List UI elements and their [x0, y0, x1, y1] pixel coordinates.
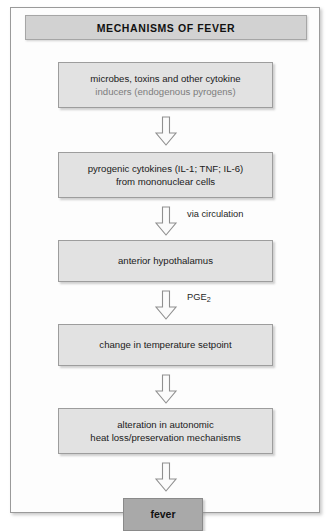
edge-label-pge2: PGE2 — [187, 292, 211, 302]
flow-node-inducers-line1: microbes, toxins and other cytokine — [90, 73, 240, 84]
arrow-down-icon — [153, 290, 179, 320]
flow-node-fever-text: fever — [144, 508, 181, 522]
flow-node-hypothalamus-text: anterior hypothalamus — [112, 254, 219, 268]
flow-node-inducers-text: microbes, toxins and other cytokine indu… — [84, 72, 246, 99]
edge-label-pge2-base: PGE — [187, 292, 207, 302]
edge-label-via-circulation: via circulation — [187, 209, 243, 219]
arrow-down-icon — [153, 462, 179, 492]
arrow-down-icon — [153, 374, 179, 404]
arrow-down-icon — [153, 116, 179, 146]
figure-frame: MECHANISMS OF FEVER microbes, toxins and… — [10, 7, 320, 513]
flow-node-inducers-line2: inducers (endogenous pyrogens) — [95, 86, 235, 97]
flow-node-cytokines-line2: from mononuclear cells — [116, 176, 215, 187]
flow-node-autonomic-text: alteration in autonomic heat loss/preser… — [84, 418, 246, 445]
flow-node-autonomic-line2: heat loss/preservation mechanisms — [90, 432, 240, 443]
flow-node-fever: fever — [123, 498, 203, 531]
flow-node-autonomic: alteration in autonomic heat loss/preser… — [58, 408, 273, 454]
flow-node-hypothalamus: anterior hypothalamus — [58, 240, 273, 282]
flow-node-cytokines-line1: pyrogenic cytokines (IL-1; TNF; IL-6) — [88, 163, 244, 174]
flow-node-autonomic-line1: alteration in autonomic — [117, 419, 214, 430]
flowchart: microbes, toxins and other cytokine indu… — [11, 48, 319, 510]
flow-node-setpoint-text: change in temperature setpoint — [93, 338, 237, 352]
flow-node-cytokines-text: pyrogenic cytokines (IL-1; TNF; IL-6) fr… — [82, 162, 250, 189]
page-title: MECHANISMS OF FEVER — [97, 22, 236, 34]
flow-node-setpoint: change in temperature setpoint — [58, 324, 273, 366]
arrow-down-icon — [153, 206, 179, 236]
figure-title-bar: MECHANISMS OF FEVER — [25, 15, 307, 40]
flow-node-cytokines: pyrogenic cytokines (IL-1; TNF; IL-6) fr… — [58, 152, 273, 198]
flow-node-inducers: microbes, toxins and other cytokine indu… — [58, 62, 273, 108]
edge-label-pge2-subscript: 2 — [207, 295, 211, 304]
